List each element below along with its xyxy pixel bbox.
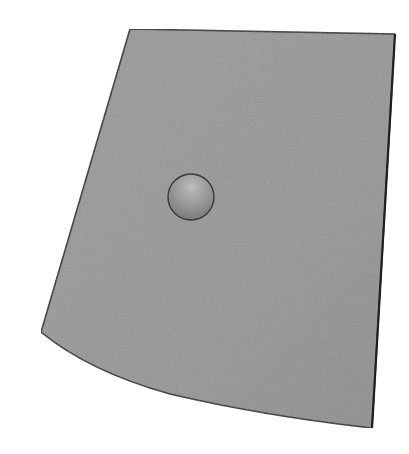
sphere bbox=[168, 174, 214, 220]
render-scene: 3D render of a curved gray sheet with a … bbox=[0, 0, 409, 454]
curved-sheet bbox=[41, 29, 395, 428]
scene-canvas bbox=[0, 0, 409, 454]
